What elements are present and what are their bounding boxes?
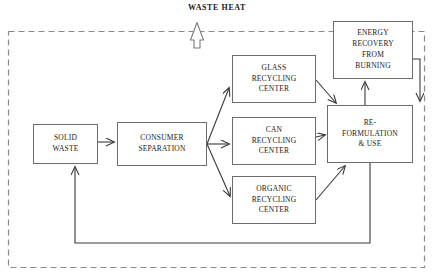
connector-glass-to-re-formulation [316,80,336,103]
waste-heat-arrow-icon [191,23,204,49]
node-can-recycling-center[interactable]: CAN RECYCLING CENTER [232,117,316,165]
connector-can-to-re-formulation [316,135,325,137]
recycling-flow-diagram: WASTE HEAT [0,0,434,279]
node-energy-recovery-from-burning[interactable]: ENERGY RECOVERY FROM BURNING [333,21,413,79]
connector-re-formulation-to-solid-waste-feedback [75,163,370,243]
node-consumer-separation[interactable]: CONSUMER SEPARATION [117,122,207,166]
node-solid-waste[interactable]: SOLID WASTE [33,124,98,164]
connector-consumer-separation-to-glass [207,88,229,144]
node-re-formulation-and-use[interactable]: RE- FORMULATION & USE [327,105,413,163]
connector-energy-recovery-to-re-formulation [413,59,420,101]
node-organic-recycling-center[interactable]: ORGANIC RECYCLING CENTER [232,176,316,224]
connector-organic-to-re-formulation [316,166,345,200]
connector-consumer-separation-to-organic [207,144,230,196]
node-glass-recycling-center[interactable]: GLASS RECYCLING CENTER [232,55,316,103]
